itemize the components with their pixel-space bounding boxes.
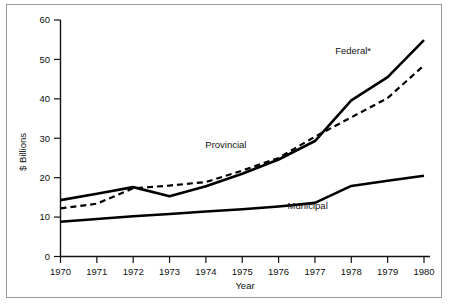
x-tick-label: 1979 [377, 266, 398, 277]
line-chart: 0102030405060 $ Billions 197019711972197… [0, 0, 449, 306]
x-axis-tick-labels: 1970197119721973197419751976197719781979… [50, 266, 435, 277]
y-tick-label: 20 [39, 172, 50, 183]
series-line-federal [61, 40, 425, 200]
x-axis-ticks [61, 257, 425, 264]
series-line-provincial [61, 65, 425, 208]
x-axis-title: Year [235, 280, 254, 291]
chart-figure: 0102030405060 $ Billions 197019711972197… [0, 0, 449, 306]
x-tick-label: 1970 [50, 266, 71, 277]
y-tick-label: 0 [45, 251, 50, 262]
x-tick-label: 1975 [232, 266, 253, 277]
data-series-group [61, 40, 425, 222]
y-tick-label: 40 [39, 93, 50, 104]
x-tick-label: 1973 [159, 266, 180, 277]
y-axis-ticks [54, 20, 61, 257]
x-axis-group: 1970197119721973197419751976197719781979… [50, 257, 435, 292]
x-tick-label: 1971 [86, 266, 107, 277]
y-axis-title: $ Billions [17, 133, 28, 171]
x-tick-label: 1972 [123, 266, 144, 277]
y-tick-label: 60 [39, 14, 50, 25]
x-tick-label: 1977 [304, 266, 325, 277]
y-axis-group: 0102030405060 $ Billions [17, 14, 61, 262]
x-tick-label: 1978 [341, 266, 362, 277]
x-tick-label: 1980 [413, 266, 434, 277]
series-label-provincial: Provincial [205, 139, 246, 150]
y-tick-label: 10 [39, 211, 50, 222]
y-tick-label: 30 [39, 133, 50, 144]
x-tick-label: 1976 [268, 266, 289, 277]
series-line-municipal [61, 176, 425, 222]
y-tick-label: 50 [39, 54, 50, 65]
y-axis-tick-labels: 0102030405060 [39, 14, 50, 262]
x-tick-label: 1974 [195, 266, 216, 277]
series-label-federal: Federal* [335, 45, 371, 56]
series-annotation-labels: Federal*ProvincialMunicipal [205, 45, 371, 211]
series-label-municipal: Municipal [288, 200, 328, 211]
